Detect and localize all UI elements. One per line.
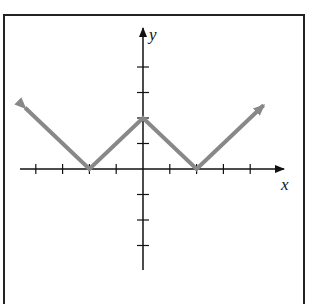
graph-line [25,105,264,169]
x-axis-label: x [280,175,289,194]
y-axis-label: y [147,25,157,44]
